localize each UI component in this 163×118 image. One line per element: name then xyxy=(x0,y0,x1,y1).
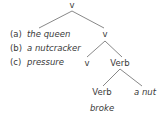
tree-edges xyxy=(0,0,163,118)
option-c-text: pressure xyxy=(27,57,64,67)
option-c-marker: (c) xyxy=(10,57,21,67)
option-b-text: a nutcracker xyxy=(27,43,81,53)
verb-node-lower: Verb xyxy=(92,87,111,97)
option-b-marker: (b) xyxy=(10,43,22,53)
option-a-marker: (a) xyxy=(10,29,22,39)
verb-word: broke xyxy=(90,103,114,113)
v-node: v xyxy=(102,29,107,39)
verb-node: Verb xyxy=(110,58,129,68)
object-node: a nut xyxy=(134,87,156,97)
option-a-text: the queen xyxy=(27,29,70,39)
root-node: v xyxy=(69,0,74,10)
v-node-lower: v xyxy=(84,58,89,68)
